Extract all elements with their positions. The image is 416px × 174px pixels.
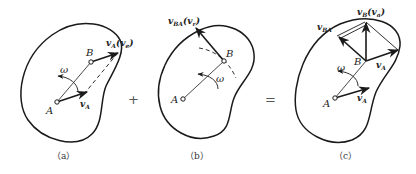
- label-B: B: [85, 47, 93, 58]
- label-A: A: [45, 105, 53, 116]
- point-B: [89, 60, 93, 64]
- plus-operator: +: [128, 92, 139, 107]
- parallelogram-edge: [366, 22, 398, 50]
- parallelogram-edge: [339, 25, 366, 39]
- label-vBA: vBA(vr): [168, 16, 200, 27]
- label-vBA: vBA: [317, 22, 332, 33]
- panel-c: A B ω vBA vB(va) vA vA （c）: [295, 7, 400, 161]
- label-B: B: [225, 48, 233, 59]
- label-B: B: [353, 56, 361, 67]
- rigid-body-outline: [159, 26, 255, 139]
- point-A: [55, 100, 59, 104]
- label-A: A: [322, 98, 330, 109]
- point-B: [222, 59, 226, 63]
- velocity-vector-vBA: [196, 28, 224, 61]
- label-omega: ω: [216, 73, 224, 84]
- panel-a: A B ω vA vA(ve) （a）: [21, 24, 134, 161]
- caption-a: （a）: [52, 151, 75, 161]
- caption-b: （b）: [185, 151, 209, 161]
- velocity-vector-vBA: [339, 37, 366, 61]
- caption-c: （c）: [334, 151, 357, 161]
- label-vB: vB(va): [357, 7, 385, 18]
- label-A: A: [170, 94, 178, 105]
- label-omega: ω: [337, 62, 345, 73]
- label-omega: ω: [60, 64, 68, 75]
- label-vA-at-B: vA(ve): [106, 38, 133, 49]
- velocity-vector-vA-at-B: [366, 50, 398, 61]
- velocity-composition-diagram: A B ω vA vA(ve) （a） + A B ω vBA(vr) （b） …: [0, 0, 416, 174]
- rigid-body-outline: [295, 19, 400, 142]
- label-vA: vA: [357, 93, 367, 104]
- label-vA: vA: [80, 99, 90, 110]
- velocity-vector-vA-at-B: [91, 53, 118, 62]
- omega-rotation-arrow: [198, 74, 218, 89]
- panel-b: A B ω vBA(vr) （b）: [159, 16, 255, 161]
- equals-operator: =: [265, 92, 276, 107]
- point-A: [181, 97, 185, 101]
- point-A: [333, 96, 337, 100]
- label-vA-at-B: vA: [376, 60, 386, 71]
- omega-rotation-arrow: [338, 71, 358, 86]
